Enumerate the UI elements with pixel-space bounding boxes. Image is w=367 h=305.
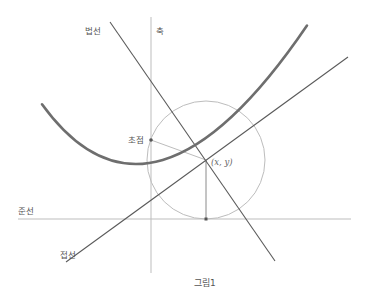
directrix-foot-point	[205, 218, 208, 221]
point-label: (x, y)	[211, 157, 233, 167]
focus-label: 초점	[128, 135, 144, 145]
focus-point	[149, 138, 153, 142]
parabola-curve	[42, 26, 307, 165]
axis-label: 축	[156, 26, 164, 36]
parabola-diagram: 법선 축 초점 준선 접선 (x, y) 그림1	[0, 0, 367, 305]
tangent-label: 접선	[60, 250, 76, 260]
normal-label: 법선	[85, 26, 101, 36]
figure-caption: 그림1	[194, 277, 216, 288]
directrix-label: 준선	[18, 206, 34, 216]
